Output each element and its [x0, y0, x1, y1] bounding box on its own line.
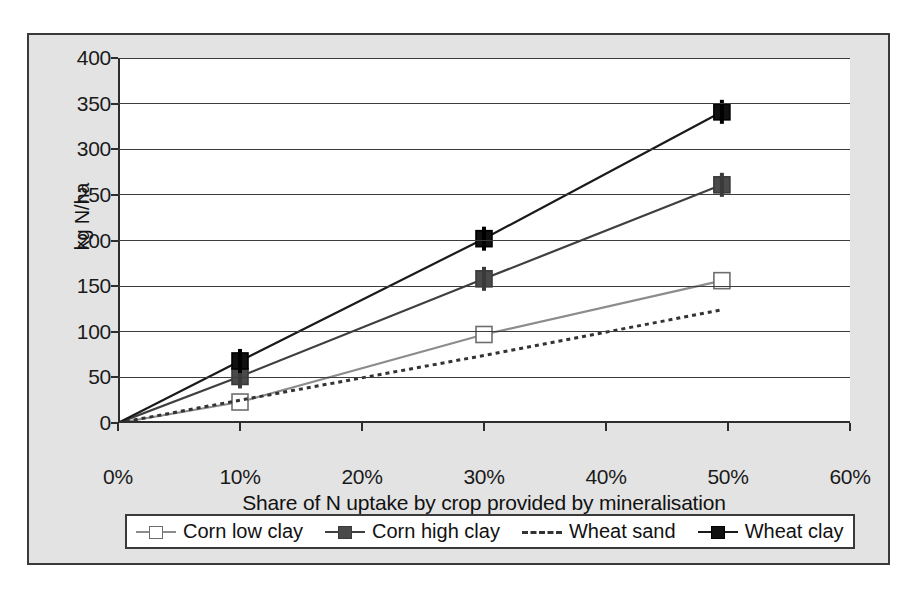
x-axis-title: Share of N uptake by crop provided by mi…: [118, 491, 850, 515]
series-line: [118, 281, 722, 423]
x-axis-tick-label: 10%: [219, 465, 260, 489]
legend-swatch-icon: [325, 522, 365, 542]
plot-area: [118, 58, 850, 423]
legend-swatch-icon: [698, 522, 738, 542]
y-axis-tick-label: 350: [77, 92, 111, 116]
x-axis-tick-label: 40%: [585, 465, 626, 489]
y-axis-tick-label: 300: [77, 137, 111, 161]
legend-item: Corn high clay: [325, 520, 500, 543]
legend-item-label: Corn low clay: [183, 520, 303, 543]
legend-item-label: Corn high clay: [372, 520, 500, 543]
x-axis-tick-label: 60%: [829, 465, 870, 489]
y-axis-tick: [111, 240, 118, 242]
x-axis-tick: [361, 423, 363, 431]
legend-item-label: Wheat sand: [569, 520, 676, 543]
y-axis-tick: [111, 148, 118, 150]
x-axis-tick-label: 30%: [463, 465, 504, 489]
y-axis-tick: [111, 376, 118, 378]
gridline: [118, 240, 850, 241]
x-axis-tick: [605, 423, 607, 431]
data-point-whisker: [482, 227, 486, 251]
x-axis-tick: [849, 423, 851, 431]
y-axis-tick: [111, 331, 118, 333]
legend-item: Wheat clay: [698, 520, 844, 543]
legend-item: Wheat sand: [522, 520, 676, 543]
data-point-whisker: [238, 349, 242, 373]
y-axis-tick-label: 100: [77, 320, 111, 344]
x-axis-tick: [727, 423, 729, 431]
y-axis-tick-labels: 050100150200250300350400: [29, 58, 111, 423]
chart-frame: kg N/ha 050100150200250300350400 0%10%20…: [27, 33, 890, 565]
data-point-whisker: [720, 173, 724, 197]
y-axis-tick-label: 150: [77, 274, 111, 298]
series-line: [118, 185, 722, 423]
x-axis-tick: [239, 423, 241, 431]
x-axis-tick-label: 0%: [103, 465, 133, 489]
data-point-marker: [232, 394, 248, 410]
data-point-whisker: [482, 267, 486, 291]
gridline: [118, 103, 850, 104]
legend-swatch-icon: [136, 522, 176, 542]
y-axis-tick-label: 250: [77, 183, 111, 207]
series-line: [118, 310, 722, 423]
gridline: [118, 331, 850, 332]
gridline: [118, 194, 850, 195]
gridline: [118, 58, 850, 59]
y-axis-tick: [111, 57, 118, 59]
data-point-marker: [476, 326, 492, 342]
gridline: [118, 286, 850, 287]
y-axis-tick: [111, 194, 118, 196]
y-axis-tick: [111, 285, 118, 287]
x-axis-tick-labels: 0%10%20%30%40%50%60%: [118, 459, 850, 489]
x-axis-tick-label: 50%: [707, 465, 748, 489]
y-axis-tick-label: 0: [100, 411, 111, 435]
x-axis-tick: [483, 423, 485, 431]
y-axis-tick-label: 50: [88, 365, 111, 389]
x-axis-tick: [117, 423, 119, 431]
chart-legend: Corn low clayCorn high clayWheat sandWhe…: [125, 514, 855, 549]
y-axis-tick: [111, 103, 118, 105]
legend-item: Corn low clay: [136, 520, 303, 543]
legend-item-label: Wheat clay: [745, 520, 844, 543]
y-axis-tick-label: 400: [77, 46, 111, 70]
x-axis-tick-label: 20%: [341, 465, 382, 489]
y-axis-tick-label: 200: [77, 229, 111, 253]
gridline: [118, 149, 850, 150]
gridline: [118, 377, 850, 378]
legend-swatch-icon: [522, 522, 562, 542]
